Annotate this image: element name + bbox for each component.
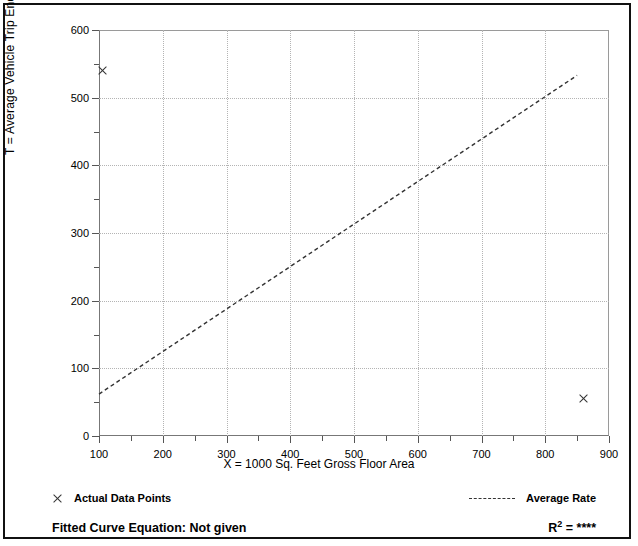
x-tick	[609, 436, 610, 443]
legend-label-average-rate: Average Rate	[526, 492, 596, 504]
x-tick-minor	[195, 436, 196, 441]
x-tick-minor	[322, 436, 323, 441]
data-point-marker	[97, 65, 108, 76]
y-tick-label: 200	[41, 296, 89, 307]
x-tick	[354, 436, 355, 443]
x-tick	[163, 436, 164, 443]
data-point-marker	[578, 393, 589, 404]
y-axis-title: T = Average Vehicle Trip Ends	[3, 0, 17, 155]
r-squared-annotation: R2 = ****	[548, 519, 596, 535]
fitted-curve-equation: Fitted Curve Equation: Not given	[52, 521, 246, 535]
r-squared-symbol: R	[548, 521, 557, 535]
y-tick-label: 300	[41, 228, 89, 239]
y-tick-label: 600	[41, 25, 89, 36]
y-tick-label: 500	[41, 93, 89, 104]
plot-area	[99, 30, 609, 436]
y-tick-label: 100	[41, 363, 89, 374]
y-tick	[92, 233, 99, 234]
trend-line-segment	[99, 75, 577, 394]
legend-average-rate: Average Rate	[469, 492, 596, 504]
legend-actual-data-points: Actual Data Points	[52, 492, 171, 504]
y-tick	[92, 301, 99, 302]
y-tick-label: 0	[41, 431, 89, 442]
x-tick	[227, 436, 228, 443]
x-axis-title: X = 1000 Sq. Feet Gross Floor Area	[5, 457, 633, 471]
y-tick	[92, 368, 99, 369]
x-tick-minor	[258, 436, 259, 441]
x-tick-minor	[513, 436, 514, 441]
r-squared-value: = ****	[566, 521, 596, 535]
average-rate-line	[99, 30, 609, 436]
x-tick	[99, 436, 100, 443]
x-tick	[290, 436, 291, 443]
y-tick	[92, 98, 99, 99]
x-marker-icon	[52, 493, 63, 504]
x-tick-minor	[577, 436, 578, 441]
dashed-line-icon	[469, 498, 515, 499]
y-tick	[92, 30, 99, 31]
x-tick	[545, 436, 546, 443]
x-tick-minor	[450, 436, 451, 441]
x-tick-minor	[131, 436, 132, 441]
y-tick	[92, 165, 99, 166]
y-tick	[92, 436, 99, 437]
x-tick	[418, 436, 419, 443]
legend-label-data-points: Actual Data Points	[74, 492, 171, 504]
x-tick	[482, 436, 483, 443]
x-tick-minor	[386, 436, 387, 441]
r-squared-exponent: 2	[557, 519, 562, 529]
chart-frame: 0100200300400500600 10020030040050060070…	[3, 3, 631, 539]
y-tick-label: 400	[41, 160, 89, 171]
